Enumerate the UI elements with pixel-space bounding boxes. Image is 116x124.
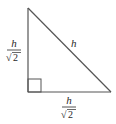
left-leg-radical-icon: √ [6, 52, 12, 63]
bottom-leg-denominator: 2 [68, 109, 73, 120]
left-leg-label: h √ 2 [6, 37, 21, 63]
right-angle-marker [28, 79, 41, 92]
left-leg-numerator: h [11, 37, 17, 49]
bottom-leg-numerator: h [66, 94, 72, 106]
left-leg-denominator: 2 [13, 52, 18, 63]
bottom-leg-label: h √ 2 [61, 94, 76, 120]
bottom-leg-radical-icon: √ [61, 109, 67, 120]
right-triangle-diagram: h h √ 2 h √ 2 [0, 0, 116, 124]
hypotenuse-label: h [71, 37, 77, 49]
